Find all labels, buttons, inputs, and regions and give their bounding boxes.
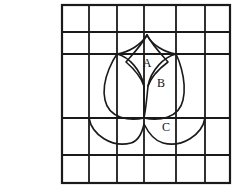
region-label-a: A [143,56,152,70]
tulip-grid-diagram: ABC [0,0,242,191]
region-label-b: B [157,76,165,90]
region-label-c: C [162,120,170,134]
figure-canvas: Fig. 4 ABC [0,0,242,191]
